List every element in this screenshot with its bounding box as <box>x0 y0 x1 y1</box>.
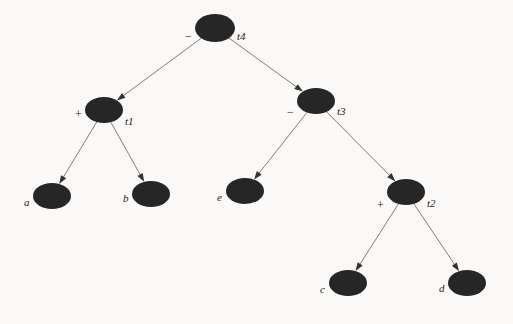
node-name-t1: t1 <box>125 116 134 127</box>
tree-edge <box>327 112 392 178</box>
node-name-a: a <box>24 197 30 208</box>
node-name-t2: t2 <box>427 198 436 209</box>
tree-node-t3[interactable] <box>297 88 335 114</box>
node-operator-t2: + <box>377 199 384 211</box>
edge-arrowhead <box>254 171 262 180</box>
node-operator-t3: − <box>287 106 294 118</box>
tree-node-d[interactable] <box>448 270 486 296</box>
node-name-t4: t4 <box>237 31 246 42</box>
tree-node-t1[interactable] <box>85 97 123 123</box>
edge-arrowhead <box>59 175 66 184</box>
node-name-e: e <box>217 192 222 203</box>
tree-edge <box>229 38 299 89</box>
tree-node-t4[interactable] <box>195 14 235 42</box>
node-operator-t4: − <box>185 30 192 42</box>
edge-arrowhead <box>137 173 144 182</box>
tree-node-e[interactable] <box>226 178 264 204</box>
edge-arrowhead <box>452 262 459 271</box>
node-name-d: d <box>439 283 445 294</box>
node-layer <box>33 14 486 296</box>
tree-edge <box>414 204 457 267</box>
edge-arrowhead <box>294 84 303 91</box>
tree-graphics <box>0 0 513 324</box>
edge-arrowhead <box>356 262 363 271</box>
expression-tree-figure: t4−t1+t3−t2+abecd <box>0 0 513 324</box>
tree-edge <box>358 204 398 267</box>
tree-edge <box>111 122 142 178</box>
edge-arrowhead <box>117 93 126 100</box>
node-name-c: c <box>320 284 325 295</box>
tree-node-a[interactable] <box>33 183 71 209</box>
tree-edge <box>62 122 97 180</box>
tree-edge <box>121 38 202 98</box>
edge-layer <box>59 38 459 271</box>
node-operator-t1: + <box>75 108 82 120</box>
tree-node-t2[interactable] <box>387 179 425 205</box>
node-name-t3: t3 <box>337 106 346 117</box>
node-name-b: b <box>123 193 129 204</box>
tree-node-c[interactable] <box>329 270 367 296</box>
tree-node-b[interactable] <box>132 181 170 207</box>
tree-edge <box>257 112 307 175</box>
